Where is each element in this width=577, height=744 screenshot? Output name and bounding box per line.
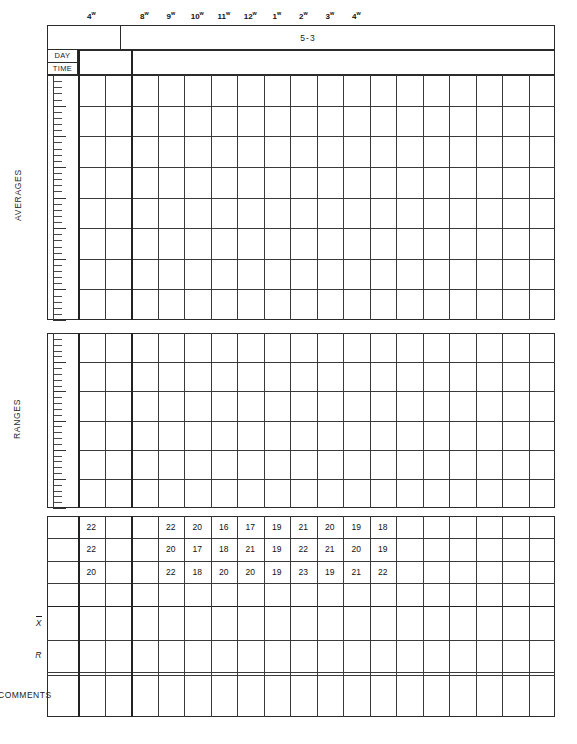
header-divider [120, 26, 121, 49]
reading-cell-c7-r2[interactable]: 19 [264, 544, 291, 554]
ranges-gridline-v-17 [529, 333, 530, 508]
reading-cell-c6-r2[interactable]: 21 [237, 544, 264, 554]
reading-cell-c7-r3[interactable]: 19 [264, 567, 291, 577]
averages-scale-tick-40 [53, 320, 66, 321]
averages-scale-tick-14 [53, 161, 62, 162]
reading-cell-c1-r1[interactable]: 22 [78, 522, 105, 532]
averages-scale-tick-29 [53, 253, 62, 254]
chart-number: 5-3 [168, 33, 448, 43]
averages-gridline-v-2 [131, 75, 133, 320]
averages-scale-tick-37 [53, 302, 62, 303]
time-cell-3: 10w [184, 0, 211, 25]
ranges-scale-tick-23 [53, 467, 62, 468]
reading-cell-c11-r3[interactable]: 22 [370, 567, 397, 577]
reading-cell-c11-r2[interactable]: 19 [370, 544, 397, 554]
ranges-scale-tick-18 [53, 438, 62, 439]
averages-gridline-v-3 [158, 75, 159, 320]
ranges-gridline-v-1 [105, 333, 106, 508]
averages-gridline-v-8 [290, 75, 291, 320]
reading-cell-c6-r3[interactable]: 20 [237, 567, 264, 577]
ranges-gridline-v-5 [211, 333, 212, 508]
reading-cell-c4-r2[interactable]: 17 [184, 544, 211, 554]
range-row-label: R [4, 650, 42, 660]
averages-gridline-v-10 [343, 75, 344, 320]
reading-cell-c8-r1[interactable]: 21 [290, 522, 317, 532]
reading-cell-c8-r2[interactable]: 22 [290, 544, 317, 554]
reading-cell-c5-r2[interactable]: 18 [211, 544, 238, 554]
averages-gridline-v-17 [529, 75, 530, 320]
averages-scale-tick-8 [53, 124, 62, 125]
reading-cell-c9-r1[interactable]: 20 [317, 522, 344, 532]
averages-scale-tick-11 [53, 142, 62, 143]
ranges-scale-tick-22 [53, 461, 62, 462]
averages-gridline-v-13 [423, 75, 424, 320]
averages-gridline-v-7 [264, 75, 265, 320]
table-gridline-v-1 [105, 516, 106, 717]
reading-cell-c4-r3[interactable]: 18 [184, 567, 211, 577]
averages-scale-tick-10 [53, 136, 66, 137]
averages-scale-spine [53, 75, 54, 320]
averages-gridline-v-11 [370, 75, 371, 320]
reading-cell-c8-r3[interactable]: 23 [290, 567, 317, 577]
time-header-separator-1 [131, 50, 133, 75]
reading-cell-c1-r3[interactable]: 20 [78, 567, 105, 577]
time-header-row [78, 50, 555, 75]
averages-scale-tick-23 [53, 216, 62, 217]
ranges-gridline-v-3 [158, 333, 159, 508]
header-band: 5-3 [47, 25, 555, 50]
ranges-scale-tick-10 [53, 391, 66, 392]
averages-gridline-v-16 [502, 75, 503, 320]
table-gridline-v-17 [529, 516, 530, 717]
ranges-gridline-v-2 [131, 333, 133, 508]
ranges-gridline-v-9 [317, 333, 318, 508]
ranges-scale-tick-28 [53, 496, 62, 497]
ranges-scale-tick-2 [53, 345, 62, 346]
control-chart-form: 5-3 DAY TIME AVERAGES RANGES X R COMMENT… [0, 0, 577, 744]
averages-scale-tick-5 [53, 106, 66, 107]
ranges-scale-tick-14 [53, 415, 62, 416]
ranges-scale-tick-4 [53, 356, 62, 357]
reading-cell-c10-r2[interactable]: 20 [343, 544, 370, 554]
reading-cell-c11-r1[interactable]: 18 [370, 522, 397, 532]
ranges-scale-tick-27 [53, 491, 62, 492]
averages-scale-tick-32 [53, 271, 62, 272]
averages-gridline-v-1 [105, 75, 106, 320]
averages-scale-tick-13 [53, 155, 62, 156]
reading-cell-c6-r1[interactable]: 17 [237, 522, 264, 532]
time-cell-1: 8w [131, 0, 158, 25]
averages-gridline-v-5 [211, 75, 212, 320]
table-gridline-v-15 [476, 516, 477, 717]
averages-scale-tick-27 [53, 240, 62, 241]
reading-cell-c4-r1[interactable]: 20 [184, 522, 211, 532]
ranges-scale-tick-26 [53, 485, 62, 486]
ranges-scale-tick-1 [53, 339, 62, 340]
ranges-scale-spine [53, 333, 54, 508]
averages-scale-tick-1 [53, 81, 62, 82]
averages-caption: AVERAGES [13, 160, 23, 230]
ranges-gridline-v-15 [476, 333, 477, 508]
reading-cell-c7-r1[interactable]: 19 [264, 522, 291, 532]
reading-cell-c5-r3[interactable]: 20 [211, 567, 238, 577]
reading-cell-c9-r2[interactable]: 21 [317, 544, 344, 554]
ranges-scale-tick-29 [53, 502, 62, 503]
time-cell-6: 1w [264, 0, 291, 25]
reading-cell-c5-r1[interactable]: 16 [211, 522, 238, 532]
ranges-scale-tick-21 [53, 456, 62, 457]
reading-cell-c3-r2[interactable]: 20 [158, 544, 185, 554]
reading-cell-c3-r1[interactable]: 22 [158, 522, 185, 532]
ranges-scale-tick-24 [53, 473, 62, 474]
ranges-gridline-v-8 [290, 333, 291, 508]
table-gridline-v-16 [502, 516, 503, 717]
reading-cell-c1-r2[interactable]: 22 [78, 544, 105, 554]
xbar-row-label: X [4, 618, 42, 628]
averages-gridline-v-4 [184, 75, 185, 320]
day-time-label-box: DAY TIME [47, 50, 78, 75]
averages-scale-tick-9 [53, 130, 62, 131]
averages-gridline-v-14 [449, 75, 450, 320]
reading-cell-c10-r1[interactable]: 19 [343, 522, 370, 532]
averages-scale-tick-28 [53, 247, 62, 248]
reading-cell-c9-r3[interactable]: 19 [317, 567, 344, 577]
ranges-scale-tick-7 [53, 374, 62, 375]
reading-cell-c10-r3[interactable]: 21 [343, 567, 370, 577]
reading-cell-c3-r3[interactable]: 22 [158, 567, 185, 577]
